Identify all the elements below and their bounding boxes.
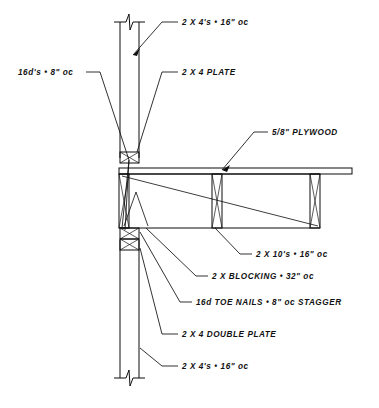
break-symbol-top-icon [126,14,133,30]
annotation-nails-16d: 16d's • 8" oc [18,68,73,77]
framing-detail-drawing: 2 X 4's • 16" oc 2 X 4 PLATE 16d's • 8" … [0,0,379,408]
annotation-studs-upper: 2 X 4's • 16" oc [181,18,249,27]
annotation-plywood: 5/8" PLYWOOD [272,128,338,137]
annotation-studs-lower: 2 X 4's • 16" oc [181,362,249,371]
top-plate [120,152,139,163]
leader-plywood [222,132,268,172]
leader-studs-upper [133,22,178,56]
subfloor-plywood [119,168,352,174]
annotation-joists: 2 X 10's • 16" oc [255,250,328,259]
break-symbol-bottom-icon [126,370,133,386]
leader-double-plate [140,248,178,334]
leader-toe-nails [140,232,192,302]
annotation-toe-nails: 16d TOE NAILS • 8" oc STAGGER [196,298,342,307]
annotation-plate-single: 2 X 4 PLATE [181,68,236,77]
floor-joist [119,174,320,228]
annotation-blocking: 2 X BLOCKING • 32" oc [211,272,314,281]
upper-wall [114,22,145,158]
annotation-double-plate: 2 X 4 DOUBLE PLATE [181,330,276,339]
leader-blocking [146,228,208,276]
leader-plate-single [137,72,178,152]
leader-joists [215,228,252,254]
double-top-plate [120,228,139,250]
drawing-canvas: 2 X 4's • 16" oc 2 X 4 PLATE 16d's • 8" … [0,0,379,408]
leader-nails-16d [86,72,129,230]
leader-studs-lower [140,348,178,366]
lower-wall [114,240,145,378]
